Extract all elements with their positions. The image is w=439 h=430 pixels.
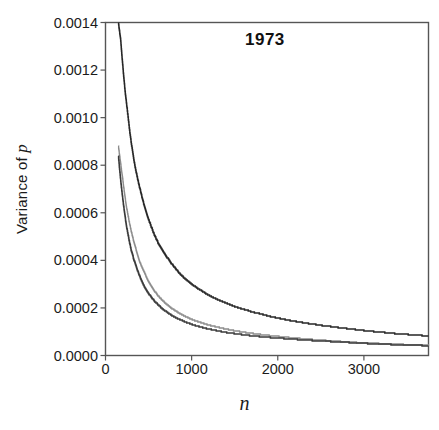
curve-middle-curve xyxy=(118,146,428,346)
x-axis-title: n xyxy=(0,392,439,415)
y-tick-label-7: 0.0014 xyxy=(2,16,98,31)
plot-frame xyxy=(106,23,429,356)
y-tick-label-4: 0.0008 xyxy=(2,158,98,173)
y-tick-label-6: 0.0012 xyxy=(2,63,98,78)
year-annotation: 1973 xyxy=(245,30,285,50)
y-tick-label-3: 0.0006 xyxy=(2,206,98,221)
data-curves xyxy=(118,23,428,346)
y-tick-label-2: 0.0004 xyxy=(2,253,98,268)
x-axis-title-variable: n xyxy=(240,392,250,414)
y-tick-label-0: 0.0000 xyxy=(2,349,98,364)
y-tick-label-1: 0.0002 xyxy=(2,301,98,316)
curve-upper-curve xyxy=(118,23,428,336)
x-tick-label-3: 3000 xyxy=(324,362,404,377)
chart-figure: Variance of p 0.00000.00020.00040.00060.… xyxy=(0,0,439,430)
x-tick-label-0: 0 xyxy=(66,362,146,377)
x-tick-label-2: 2000 xyxy=(238,362,318,377)
y-tick-label-5: 0.0010 xyxy=(2,111,98,126)
x-tick-label-1: 1000 xyxy=(152,362,232,377)
